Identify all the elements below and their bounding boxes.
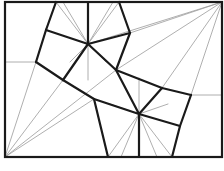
edge-line	[119, 2, 130, 33]
edge-line	[88, 33, 130, 44]
edge-line	[162, 88, 191, 95]
edge-line	[63, 44, 88, 80]
edge-line	[46, 2, 56, 30]
diagram-canvas	[0, 0, 224, 171]
edge-line	[36, 62, 63, 80]
edge-line	[172, 126, 180, 157]
guide-line	[5, 62, 36, 157]
edge-line	[116, 33, 130, 70]
guide-line	[139, 114, 157, 157]
guide-line	[162, 2, 222, 88]
thin-guide-lines	[5, 2, 222, 157]
edge-line	[63, 80, 94, 99]
edge-line	[180, 95, 191, 126]
edge-line	[94, 99, 108, 157]
guide-line	[139, 114, 172, 157]
edge-line	[139, 114, 180, 126]
geometric-diagram	[0, 0, 224, 171]
edge-line	[36, 30, 46, 62]
edge-line	[88, 44, 116, 70]
outer-frame	[5, 2, 222, 157]
guide-line	[5, 99, 94, 157]
edge-line	[46, 30, 88, 44]
guide-line	[116, 2, 222, 70]
guide-line	[191, 2, 222, 95]
